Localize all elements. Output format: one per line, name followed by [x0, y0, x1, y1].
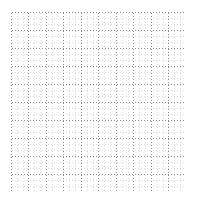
graph-paper-canvas	[0, 0, 197, 202]
grid-plot-area	[11, 12, 186, 192]
grid-lines	[11, 12, 186, 192]
